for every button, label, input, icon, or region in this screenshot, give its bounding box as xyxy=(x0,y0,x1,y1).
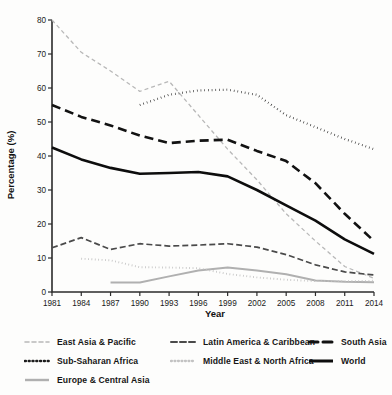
x-tick-label: 1984 xyxy=(72,299,91,308)
series-line-sub-saharan-africa xyxy=(140,90,374,150)
legend-label: Middle East & North Africa xyxy=(203,356,314,366)
legend-line-icon xyxy=(24,356,50,366)
legend-line-icon xyxy=(170,337,196,347)
y-tick-label: 60 xyxy=(37,84,47,93)
x-tick-label: 1999 xyxy=(219,299,238,308)
x-tick-label: 2005 xyxy=(277,299,296,308)
x-axis-title: Year xyxy=(205,308,225,319)
x-tick-label: 1996 xyxy=(189,299,208,308)
x-tick-label: 1981 xyxy=(43,299,62,308)
legend-line-icon xyxy=(24,375,50,385)
legend-line-icon xyxy=(170,356,196,366)
series-line-middle-east-north-africa xyxy=(81,259,374,281)
x-tick-label: 2014 xyxy=(365,299,384,308)
x-tick-label: 2002 xyxy=(248,299,267,308)
x-tick-label: 2011 xyxy=(336,299,354,308)
y-tick-label: 20 xyxy=(37,220,47,229)
legend-label: World xyxy=(341,356,366,366)
legend-line-icon xyxy=(308,356,334,366)
y-tick-label: 50 xyxy=(37,118,47,127)
y-tick-label: 30 xyxy=(37,186,47,195)
x-tick-label: 1993 xyxy=(160,299,179,308)
legend-line-icon xyxy=(24,337,50,347)
chart-axes xyxy=(48,20,374,296)
y-axis-title: Percentage (%) xyxy=(5,131,16,200)
series-line-world xyxy=(52,148,374,254)
y-tick-label: 40 xyxy=(37,152,47,161)
chart-legend: East Asia & PacificLatin America & Carib… xyxy=(0,326,392,395)
y-tick-label: 0 xyxy=(41,288,46,297)
legend-item-east-asia-pacific[interactable]: East Asia & Pacific xyxy=(24,337,170,347)
y-tick-label: 80 xyxy=(37,16,47,25)
legend-item-sub-saharan-africa[interactable]: Sub-Saharan Africa xyxy=(24,356,170,366)
y-tick-label: 70 xyxy=(37,50,47,59)
legend-item-south-asia[interactable]: South Asia xyxy=(308,337,387,347)
y-tick-label: 10 xyxy=(37,254,47,263)
legend-item-middle-east-north-africa[interactable]: Middle East & North Africa xyxy=(170,356,308,366)
legend-label: Latin America & Caribbean xyxy=(203,337,315,347)
x-tick-label: 2008 xyxy=(306,299,325,308)
chart-figure: 0102030405060708019811984198719901993199… xyxy=(0,0,392,395)
x-tick-label: 1987 xyxy=(101,299,120,308)
line-chart-plot: 0102030405060708019811984198719901993199… xyxy=(0,0,392,320)
legend-label: Sub-Saharan Africa xyxy=(57,356,138,366)
legend-label: South Asia xyxy=(341,337,387,347)
legend-item-latin-america-caribbean[interactable]: Latin America & Caribbean xyxy=(170,337,308,347)
legend-label: East Asia & Pacific xyxy=(57,337,136,347)
legend-label: Europe & Central Asia xyxy=(57,375,150,385)
series-line-east-asia-pacific xyxy=(52,20,374,278)
chart-series-layer xyxy=(52,20,374,282)
legend-item-world[interactable]: World xyxy=(308,356,387,366)
legend-item-europe-central-asia[interactable]: Europe & Central Asia xyxy=(24,375,170,385)
legend-line-icon xyxy=(308,337,334,347)
x-tick-label: 1990 xyxy=(131,299,150,308)
legend-grid: East Asia & PacificLatin America & Carib… xyxy=(24,332,384,389)
